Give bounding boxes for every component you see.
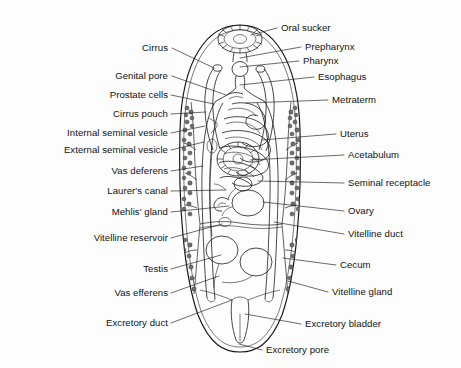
tegument-inner-line [184, 30, 297, 347]
label-vitelline-reservoir: Vitelline reservoir [94, 232, 169, 243]
label-prostate-cells: Prostate cells [110, 89, 168, 100]
label-prepharynx: Prepharynx [305, 41, 355, 52]
trematode-anatomy-figure: CirrusGenital poreProstate cellsCirrus p… [0, 0, 461, 368]
seminal-receptacle-organ [228, 177, 252, 199]
label-vas-efferens: Vas efferens [114, 287, 168, 298]
label-vas-deferens: Vas deferens [112, 165, 169, 176]
leader-line-cirrus [172, 48, 214, 68]
labels-left-group: CirrusGenital poreProstate cellsCirrus p… [64, 42, 169, 328]
label-esophagus: Esophagus [318, 71, 367, 82]
label-vitelline-duct: Vitelline duct [348, 228, 403, 239]
leader-line-vas-deferens [171, 166, 203, 171]
label-excretory-duct: Excretory duct [106, 317, 168, 328]
leader-line-ovary [263, 202, 344, 211]
body-outline-group [180, 25, 301, 352]
label-cirrus: Cirrus [142, 42, 168, 53]
prepharynx-left [233, 53, 234, 62]
leader-line-vitelline-reservoir [171, 224, 222, 238]
body-wall-outline [180, 25, 301, 352]
ovary-organ [232, 190, 264, 216]
laurers-canal-organ [214, 184, 226, 190]
leader-line-pharynx [240, 61, 299, 67]
oral-sucker-organ [218, 25, 262, 53]
leader-line-esophagus [240, 77, 314, 85]
label-internal-seminal-vesicle: Internal seminal vesicle [67, 127, 168, 138]
labels-bottom-group: Excretory pore [266, 344, 329, 355]
leader-line-vitelline-gland [288, 281, 328, 292]
cecum-fork-left [216, 88, 236, 101]
label-testis: Testis [143, 263, 168, 274]
leader-line-internal-seminal-vesicle [171, 126, 205, 133]
leader-line-excretory-duct [171, 300, 232, 323]
leader-line-metraterm [246, 100, 328, 103]
label-external-seminal-vesicle: External seminal vesicle [64, 144, 168, 155]
testis-organ [206, 236, 272, 276]
label-pharynx: Pharynx [303, 55, 339, 66]
label-laurers-canal: Laurer's canal [107, 185, 168, 196]
genital-pore-organ [227, 93, 243, 99]
excretory-system-organ [200, 290, 280, 343]
label-cecum: Cecum [340, 259, 371, 270]
esophagus-left [235, 76, 236, 88]
acetabulum-organ [217, 142, 259, 176]
label-seminal-receptacle: Seminal receptacle [348, 177, 431, 188]
label-metraterm: Metraterm [332, 94, 376, 105]
esophagus-right [244, 76, 245, 88]
label-oral-sucker: Oral sucker [281, 22, 331, 33]
label-cirrus-pouch: Cirrus pouch [113, 108, 168, 119]
leader-line-seminal-receptacle [258, 181, 344, 183]
label-acetabulum: Acetabulum [348, 149, 399, 160]
cecum-fork-right [244, 88, 264, 101]
label-uterus: Uterus [340, 128, 369, 139]
leader-line-genital-pore [172, 76, 226, 95]
vitelline-duct-organ [200, 222, 282, 229]
label-excretory-bladder: Excretory bladder [305, 318, 382, 329]
leader-line-excretory-bladder [245, 314, 301, 324]
label-vitelline-gland: Vitelline gland [332, 286, 392, 297]
leader-line-vitelline-duct [274, 222, 344, 234]
leader-line-prostate-cells [171, 95, 214, 104]
label-excretory-pore: Excretory pore [266, 344, 329, 355]
cecum-organ [202, 101, 278, 302]
pharynx-organ [232, 62, 248, 77]
vitelline-follicle-cluster-right [286, 106, 300, 291]
label-mehlis-gland: Mehlis' gland [112, 206, 168, 217]
leader-line-cirrus-pouch [171, 112, 206, 114]
leader-line-laurers-canal [171, 190, 226, 191]
label-genital-pore: Genital pore [115, 70, 168, 81]
diagram-page: CirrusGenital poreProstate cellsCirrus p… [0, 0, 461, 368]
label-ovary: Ovary [348, 205, 374, 216]
prepharynx-right [246, 53, 247, 62]
labels-right-group: Oral suckerPrepharynxPharynxEsophagusMet… [281, 22, 431, 329]
leader-line-cecum [283, 258, 336, 265]
leader-line-prepharynx [240, 47, 301, 58]
